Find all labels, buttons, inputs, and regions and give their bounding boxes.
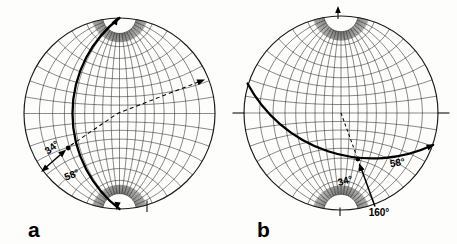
panel-letter-a: a	[28, 218, 40, 241]
trend-arrowhead-a	[196, 77, 206, 86]
stereonet-grid-a	[24, 18, 215, 209]
plunge-label-b: 34°	[336, 173, 353, 188]
stereonet-panel-b: 34° 58° 160°	[233, 6, 450, 218]
lineation-point-a	[66, 146, 71, 151]
stereonets-svg: 34° 58° 34° 58° 160°	[0, 0, 457, 244]
north-arrowhead-b	[335, 6, 341, 13]
figure-container: 34° 58° 34° 58° 160°	[0, 0, 457, 244]
graticule	[24, 20, 215, 208]
trend-label-b: 160°	[369, 207, 390, 218]
stereonet-panel-a: 34° 58°	[24, 16, 215, 212]
trend-dashed-line-a	[71, 81, 202, 146]
dip-label-b: 58°	[389, 156, 406, 169]
panel-letter-b: b	[257, 218, 270, 241]
dipping-plane-arc-b	[248, 84, 434, 159]
lineation-point-b	[355, 157, 360, 162]
